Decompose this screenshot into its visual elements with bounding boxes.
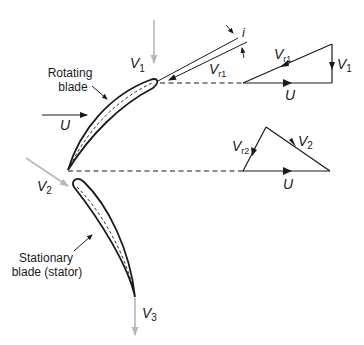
v2-label: V2	[37, 178, 52, 196]
tri2-vr2-label: Vr2	[232, 138, 249, 156]
v3-label: V3	[142, 305, 157, 323]
tri1-u-arrowhead	[283, 79, 292, 87]
incidence-angle-marker-bottom	[242, 48, 244, 58]
stator-label-line2: blade (stator)	[12, 265, 83, 279]
stationary-blade	[73, 179, 135, 297]
tri2-u-label: U	[283, 176, 294, 192]
tri1-u-label: U	[285, 87, 296, 103]
tri1-vr1-label: Vr1	[274, 46, 291, 64]
v2-flow-arrow	[26, 158, 68, 186]
tri2-u-arrowhead	[283, 167, 292, 175]
blade-speed-label: U	[60, 117, 71, 133]
tri2-vr2-arrowhead	[251, 147, 257, 156]
tri1-v1-label: V1	[337, 56, 352, 74]
incidence-angle-marker-top	[226, 25, 233, 33]
stator-pointer	[74, 235, 92, 251]
tri2-v2-label: V2	[298, 133, 313, 151]
rotating-blade-label-line1: Rotating	[48, 66, 93, 80]
rotating-blade-label-line2: blade	[58, 80, 88, 94]
rotating-blade-pointer	[92, 86, 107, 99]
v1-label: V1	[130, 55, 145, 74]
outlet-velocity-triangle	[243, 127, 330, 175]
incidence-label: i	[242, 25, 246, 40]
tri1-v1-arrowhead	[329, 62, 335, 70]
vr1-label: Vr1	[209, 61, 226, 79]
blade-velocity-diagram: Rotating blade U V1 i Vr1 Vr1 V1 U Vr2 V…	[0, 0, 364, 345]
stator-label-line1: Stationary	[19, 251, 73, 265]
inlet-velocity-triangle	[243, 44, 335, 87]
vr1-relative-velocity-arrow	[169, 42, 247, 80]
